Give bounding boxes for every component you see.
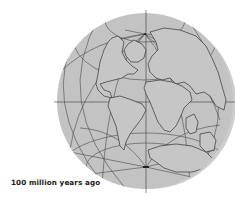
map-caption: 100 million years ago	[11, 178, 100, 187]
paleogeographic-globe	[0, 0, 235, 198]
south-pole-marker	[143, 166, 149, 168]
north-pole-marker	[144, 33, 146, 35]
